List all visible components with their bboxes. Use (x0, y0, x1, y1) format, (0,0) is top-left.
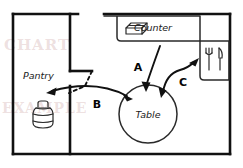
route-b-label: B (93, 98, 101, 111)
table-label: Table (135, 109, 160, 120)
route-a-label: A (134, 61, 143, 74)
route-a-arrowhead (142, 82, 151, 93)
counter-label: Counter (134, 22, 173, 33)
pantry-door-swing (69, 71, 92, 93)
route-c-label: C (179, 76, 187, 89)
fork-and-knife-icon (206, 48, 222, 70)
utensil-station-outline (200, 41, 229, 80)
jar-canister-icon (33, 101, 53, 128)
route-b-arrowhead-left (46, 88, 57, 96)
route-a-line (146, 46, 160, 86)
route-b-line (52, 86, 127, 96)
pantry-label: Pantry (23, 70, 54, 81)
floorplan-diagram: Counter Table Pantry A B C (0, 0, 243, 168)
